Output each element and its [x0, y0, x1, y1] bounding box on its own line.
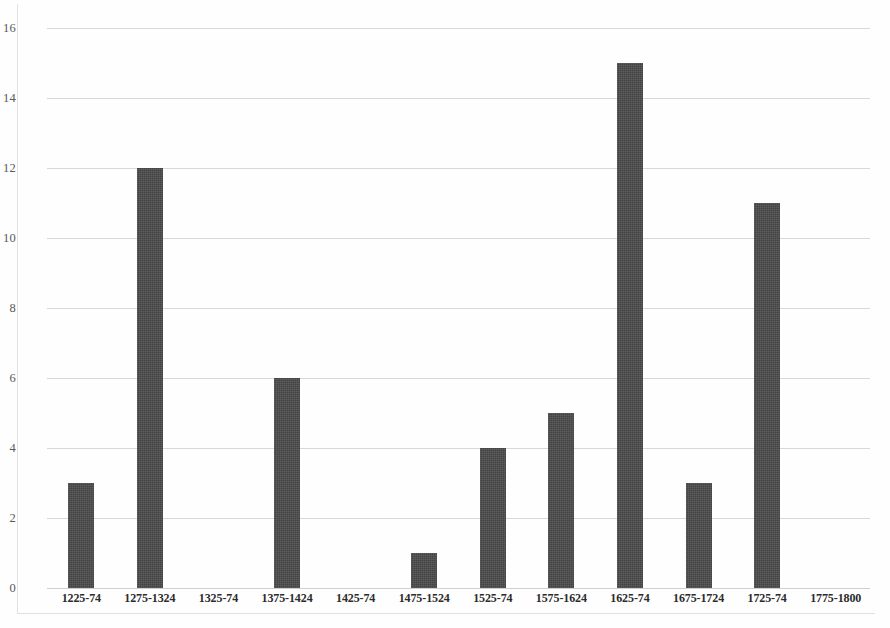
x-axis-label: 1225-74 — [62, 591, 101, 606]
gridline-0 — [47, 588, 870, 589]
x-axis-label: 1625-74 — [610, 591, 649, 606]
plot-area: 0246810121416 — [47, 28, 870, 588]
x-axis-label: 1475-1524 — [399, 591, 450, 606]
x-axis-tick-labels: 1225-741275-13241325-741375-14241425-741… — [47, 591, 870, 611]
chart-frame-bottom-border — [17, 613, 875, 614]
bars-group — [47, 28, 870, 588]
y-axis-label-14: 14 — [0, 91, 16, 106]
bar-band — [596, 28, 665, 588]
bar — [754, 203, 780, 588]
bar — [274, 378, 300, 588]
bar — [68, 483, 94, 588]
x-axis-label: 1425-74 — [336, 591, 375, 606]
y-axis-label-12: 12 — [0, 161, 16, 176]
bar — [480, 448, 506, 588]
x-axis-label: 1675-1724 — [673, 591, 724, 606]
bar-band — [527, 28, 596, 588]
x-axis-label: 1525-74 — [473, 591, 512, 606]
x-axis-label: 1775-1800 — [810, 591, 861, 606]
bar-band — [801, 28, 870, 588]
bar-band — [47, 28, 116, 588]
bar — [548, 413, 574, 588]
y-axis-label-6: 6 — [0, 371, 16, 386]
y-axis-label-10: 10 — [0, 231, 16, 246]
bar — [411, 553, 437, 588]
bar — [686, 483, 712, 588]
bar-chart: 0246810121416 1225-741275-13241325-74137… — [0, 0, 890, 628]
bar-band — [321, 28, 390, 588]
x-axis-label: 1325-74 — [199, 591, 238, 606]
x-axis-label: 1725-74 — [747, 591, 786, 606]
x-axis-label: 1275-1324 — [124, 591, 175, 606]
bar — [137, 168, 163, 588]
y-axis-label-0: 0 — [0, 581, 16, 596]
y-axis-label-4: 4 — [0, 441, 16, 456]
bar-band — [184, 28, 253, 588]
bar-band — [390, 28, 459, 588]
x-axis-label: 1375-1424 — [261, 591, 312, 606]
bar — [617, 63, 643, 588]
bar-band — [664, 28, 733, 588]
bar-band — [253, 28, 322, 588]
bar-band — [459, 28, 528, 588]
chart-frame-left-border — [17, 4, 18, 613]
y-axis-label-16: 16 — [0, 21, 16, 36]
bar-band — [116, 28, 185, 588]
bar-band — [733, 28, 802, 588]
x-axis-label: 1575-1624 — [536, 591, 587, 606]
y-axis-label-8: 8 — [0, 301, 16, 316]
y-axis-label-2: 2 — [0, 511, 16, 526]
